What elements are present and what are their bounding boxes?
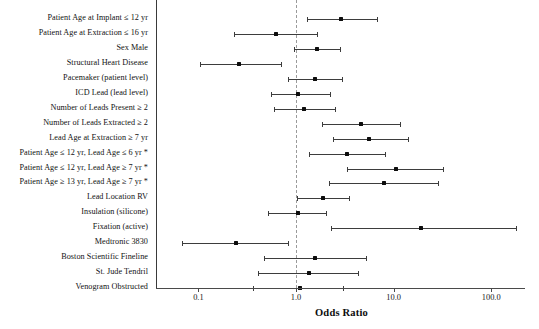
ci-lower-cap xyxy=(347,167,348,172)
x-axis-line xyxy=(156,288,525,289)
ci-lower-cap xyxy=(297,196,298,201)
row-label: Patient Age at Extraction ≤ 16 yr xyxy=(0,28,148,37)
row-label: Medtronic 3830 xyxy=(0,237,148,246)
row-label: Lead Age at Extraction ≥ 7 yr xyxy=(0,133,148,142)
ci-lower-cap xyxy=(200,62,201,67)
row-label: St. Jude Tendril xyxy=(0,267,148,276)
odds-ratio-point-marker xyxy=(296,92,300,96)
odds-ratio-point-marker xyxy=(321,196,325,200)
ci-upper-cap xyxy=(326,211,327,216)
confidence-interval-row xyxy=(258,273,359,274)
confidence-interval-bar xyxy=(200,64,282,65)
odds-ratio-point-marker xyxy=(394,167,398,171)
row-label: Pacemaker (patient level) xyxy=(0,73,148,82)
odds-ratio-point-marker xyxy=(313,256,317,260)
confidence-interval-row xyxy=(288,79,342,80)
confidence-interval-row xyxy=(307,19,378,20)
odds-ratio-point-marker xyxy=(302,107,306,111)
row-label: Patient Age at Implant ≤ 12 yr xyxy=(0,13,148,22)
row-label: Patient Age ≤ 12 yr, Lead Age ≥ 7 yr * xyxy=(0,163,148,172)
ci-upper-cap xyxy=(438,181,439,186)
confidence-interval-row xyxy=(322,124,401,125)
row-label: Venogram Obstructed xyxy=(0,282,148,291)
ci-upper-cap xyxy=(330,92,331,97)
odds-ratio-point-marker xyxy=(367,137,371,141)
ci-lower-cap xyxy=(258,271,259,276)
odds-ratio-point-marker xyxy=(382,181,386,185)
confidence-interval-row xyxy=(347,169,445,170)
odds-ratio-point-marker xyxy=(313,77,317,81)
confidence-interval-row xyxy=(200,64,282,65)
ci-upper-cap xyxy=(317,32,318,37)
ci-lower-cap xyxy=(333,137,334,142)
confidence-interval-row xyxy=(309,154,386,155)
row-label: Fixation (active) xyxy=(0,222,148,231)
ci-lower-cap xyxy=(182,241,183,246)
confidence-interval-bar xyxy=(331,228,517,229)
odds-ratio-point-marker xyxy=(296,211,300,215)
confidence-interval-row xyxy=(329,183,438,184)
ci-lower-cap xyxy=(329,181,330,186)
confidence-interval-row xyxy=(333,139,409,140)
ci-lower-cap xyxy=(331,226,332,231)
ci-upper-cap xyxy=(385,152,386,157)
ci-upper-cap xyxy=(335,107,336,112)
ci-lower-cap xyxy=(271,92,272,97)
row-label: Lead Location RV xyxy=(0,192,148,201)
confidence-interval-row xyxy=(264,258,367,259)
ci-lower-cap xyxy=(322,122,323,127)
x-tick-label: 100.0 xyxy=(482,293,501,302)
confidence-interval-row xyxy=(274,109,336,110)
row-label: Boston Scientific Fineline xyxy=(0,252,148,261)
row-label: Structural Heart Disease xyxy=(0,58,148,67)
confidence-interval-bar xyxy=(271,94,331,95)
ci-upper-cap xyxy=(400,122,401,127)
row-label: Patient Age ≤ 12 yr, Lead Age ≤ 6 yr * xyxy=(0,148,148,157)
plot-panel xyxy=(156,0,527,288)
confidence-interval-row xyxy=(294,49,341,50)
null-reference-line xyxy=(296,0,297,288)
row-label: Patient Age ≥ 13 yr, Lead Age ≥ 7 yr * xyxy=(0,177,148,186)
ci-upper-cap xyxy=(366,256,367,261)
ci-upper-cap xyxy=(377,17,378,22)
odds-ratio-point-marker xyxy=(359,122,363,126)
odds-ratio-point-marker xyxy=(237,62,241,66)
confidence-interval-row xyxy=(331,228,517,229)
ci-upper-cap xyxy=(349,196,350,201)
odds-ratio-point-marker xyxy=(345,152,349,156)
ci-lower-cap xyxy=(309,152,310,157)
confidence-interval-row xyxy=(234,34,319,35)
ci-upper-cap xyxy=(281,62,282,67)
ci-upper-cap xyxy=(358,271,359,276)
odds-ratio-point-marker xyxy=(339,17,343,21)
row-label: Sex Male xyxy=(0,43,148,52)
ci-lower-cap xyxy=(274,107,275,112)
ci-upper-cap xyxy=(340,47,341,52)
odds-ratio-point-marker xyxy=(315,47,319,51)
row-label: Number of Leads Present ≥ 2 xyxy=(0,103,148,112)
confidence-interval-row xyxy=(182,243,289,244)
ci-lower-cap xyxy=(294,47,295,52)
ci-lower-cap xyxy=(307,17,308,22)
ci-upper-cap xyxy=(342,77,343,82)
x-axis-title: Odds Ratio xyxy=(156,307,527,318)
row-label: Insulation (silicone) xyxy=(0,207,148,216)
odds-ratio-point-marker xyxy=(274,32,278,36)
odds-ratio-point-marker xyxy=(234,241,238,245)
ci-lower-cap xyxy=(264,256,265,261)
ci-upper-cap xyxy=(408,137,409,142)
ci-lower-cap xyxy=(234,32,235,37)
confidence-interval-row xyxy=(271,94,331,95)
ci-upper-cap xyxy=(288,241,289,246)
row-label: ICD Lead (lead level) xyxy=(0,88,148,97)
ci-upper-cap xyxy=(516,226,517,231)
x-tick-label: 0.1 xyxy=(193,293,203,302)
confidence-interval-row xyxy=(297,198,350,199)
x-tick-label: 1.0 xyxy=(291,293,301,302)
row-label: Number of Leads Extracted ≥ 2 xyxy=(0,118,148,127)
odds-ratio-point-marker xyxy=(419,226,423,230)
confidence-interval-row xyxy=(268,213,327,214)
row-label-column: Patient Age at Implant ≤ 12 yrPatient Ag… xyxy=(0,0,154,288)
forest-plot-figure: Patient Age at Implant ≤ 12 yrPatient Ag… xyxy=(0,0,539,329)
odds-ratio-point-marker xyxy=(307,271,311,275)
